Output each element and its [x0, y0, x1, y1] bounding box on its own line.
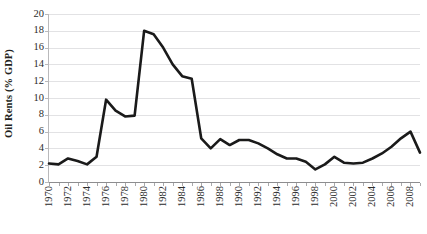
x-axis-tick-label: 2006	[385, 186, 397, 230]
x-axis-tick-label-text: 1974	[82, 186, 93, 207]
x-axis-tick-mark	[78, 183, 79, 186]
x-axis-tick-label: 1994	[271, 186, 283, 230]
x-axis-tick-label: 1984	[176, 186, 188, 230]
x-axis-line	[49, 182, 420, 183]
x-axis-tick-label-text: 2008	[405, 186, 416, 207]
x-axis-tick-label: 1996	[290, 186, 302, 230]
x-axis-tick-label: 1992	[252, 186, 264, 230]
x-axis-tick-mark	[420, 183, 421, 186]
x-axis-tick-mark	[135, 183, 136, 186]
x-axis-tick-label-text: 1976	[101, 186, 112, 207]
x-axis-tick-mark	[192, 183, 193, 186]
x-axis-tick-mark	[306, 183, 307, 186]
x-axis-tick-label-text: 2006	[386, 186, 397, 207]
x-axis-tick-mark	[382, 183, 383, 186]
x-axis-tick-mark	[59, 183, 60, 186]
x-axis-tick-label: 1998	[309, 186, 321, 230]
x-axis-tick-mark	[249, 183, 250, 186]
x-axis-tick-label: 1972	[62, 186, 74, 230]
x-axis-tick-label: 1982	[157, 186, 169, 230]
y-axis-tick-label: 14	[12, 59, 44, 70]
oil-rents-line-path	[49, 31, 420, 170]
x-axis-tick-label-text: 1972	[63, 186, 74, 207]
x-axis-tick-label-text: 1980	[139, 186, 150, 207]
y-axis-tick-label: 16	[12, 42, 44, 53]
x-axis-tick-mark	[287, 183, 288, 186]
x-axis-tick-label-text: 1982	[158, 186, 169, 207]
x-axis-tick-label-text: 2002	[348, 186, 359, 207]
x-axis-tick-mark	[116, 183, 117, 186]
x-axis-tick-mark	[363, 183, 364, 186]
x-axis-tick-mark	[325, 183, 326, 186]
x-axis-tick-label-text: 1988	[215, 186, 226, 207]
x-axis-tick-label: 1986	[195, 186, 207, 230]
y-axis-tick-label: 6	[12, 126, 44, 137]
x-axis-tick-mark	[344, 183, 345, 186]
y-axis-tick-label: 2	[12, 160, 44, 171]
x-axis-tick-mark	[211, 183, 212, 186]
x-axis-tick-label-text: 1986	[196, 186, 207, 207]
x-axis-tick-label-text: 1978	[120, 186, 131, 207]
y-axis-tick-label: 20	[12, 9, 44, 20]
x-axis-tick-label-text: 1992	[253, 186, 264, 207]
y-axis-tick-label: 18	[12, 25, 44, 36]
x-axis-tick-mark	[173, 183, 174, 186]
y-axis-tick-label: 12	[12, 76, 44, 87]
x-axis-tick-label: 2004	[366, 186, 378, 230]
x-axis-tick-label: 1976	[100, 186, 112, 230]
x-axis-tick-label-text: 1998	[310, 186, 321, 207]
y-axis-tick-label: 10	[12, 93, 44, 104]
y-axis-title: Oil Rents (% GDP)	[0, 0, 16, 186]
x-axis-tick-label: 1978	[119, 186, 131, 230]
x-axis-tick-label: 1970	[43, 186, 55, 230]
y-axis-tick-label: 4	[12, 143, 44, 154]
x-axis-tick-label: 1974	[81, 186, 93, 230]
x-axis-tick-label: 2000	[328, 186, 340, 230]
x-axis-tick-label: 1990	[233, 186, 245, 230]
plot-area	[49, 14, 420, 182]
y-axis-tick-label: 0	[12, 177, 44, 188]
x-axis-tick-label: 2002	[347, 186, 359, 230]
x-axis-tick-label-text: 1996	[291, 186, 302, 207]
x-axis-tick-mark	[154, 183, 155, 186]
x-axis-tick-label-text: 2004	[367, 186, 378, 207]
x-axis-tick-label-text: 1994	[272, 186, 283, 207]
x-axis-tick-mark	[97, 183, 98, 186]
x-axis-tick-label-text: 1970	[44, 186, 55, 207]
x-axis-tick-label: 2008	[404, 186, 416, 230]
x-axis-tick-label-text: 2000	[329, 186, 340, 207]
oil-rents-series	[49, 14, 420, 182]
oil-rents-line-chart: Oil Rents (% GDP) 02468101214161820 1970…	[0, 0, 427, 234]
x-axis-tick-label: 1988	[214, 186, 226, 230]
x-axis-tick-label: 1980	[138, 186, 150, 230]
x-axis-tick-label-text: 1990	[234, 186, 245, 207]
x-axis-tick-mark	[268, 183, 269, 186]
x-axis-tick-label-text: 1984	[177, 186, 188, 207]
x-axis-tick-mark	[230, 183, 231, 186]
y-axis-title-label: Oil Rents (% GDP)	[3, 49, 14, 138]
x-axis-tick-mark	[401, 183, 402, 186]
y-axis-tick-label: 8	[12, 109, 44, 120]
